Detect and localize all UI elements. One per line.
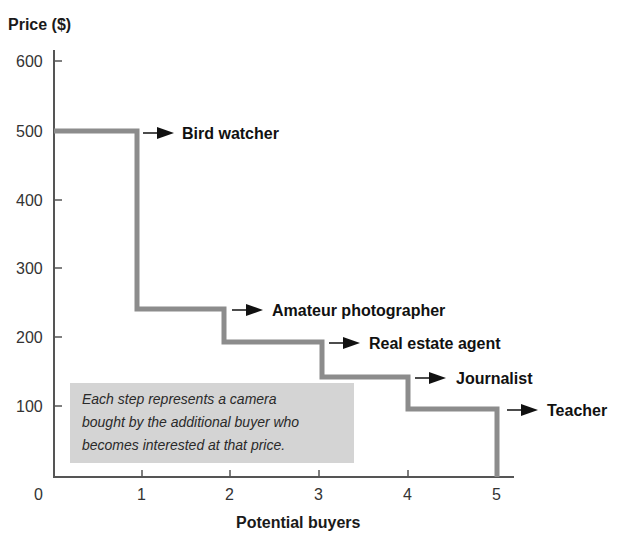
x-tick-0: 0 bbox=[34, 486, 43, 503]
x-tick-1: 1 bbox=[137, 486, 146, 503]
y-tick-600: 600 bbox=[16, 53, 43, 70]
y-tick-labels: 600 500 400 300 200 100 bbox=[16, 53, 43, 415]
x-ticks bbox=[142, 470, 408, 477]
annotation-line-1: Each step represents a camera bbox=[82, 391, 277, 407]
demand-step-chart: Price ($) 600 500 400 300 200 100 0 1 2 … bbox=[0, 0, 637, 538]
y-axis-label: Price ($) bbox=[8, 16, 71, 33]
y-tick-500: 500 bbox=[16, 123, 43, 140]
y-tick-400: 400 bbox=[16, 192, 43, 209]
buyer-label-3: Real estate agent bbox=[329, 335, 501, 352]
buyer-name: Amateur photographer bbox=[272, 302, 445, 319]
arrow-right-icon bbox=[415, 372, 446, 384]
y-tick-300: 300 bbox=[16, 260, 43, 277]
buyer-name: Real estate agent bbox=[369, 335, 501, 352]
arrow-right-icon bbox=[329, 337, 360, 349]
buyer-label-2: Amateur photographer bbox=[232, 302, 445, 319]
x-axis-label: Potential buyers bbox=[236, 514, 361, 531]
arrow-right-icon bbox=[143, 127, 174, 139]
annotation-line-3: becomes interested at that price. bbox=[82, 437, 285, 453]
annotation-line-2: bought by the additional buyer who bbox=[82, 414, 299, 430]
buyer-label-1: Bird watcher bbox=[143, 125, 279, 142]
x-tick-2: 2 bbox=[225, 486, 234, 503]
buyer-name: Bird watcher bbox=[182, 125, 279, 142]
y-tick-200: 200 bbox=[16, 329, 43, 346]
buyer-name: Teacher bbox=[547, 402, 607, 419]
y-ticks bbox=[54, 61, 62, 406]
x-tick-5: 5 bbox=[492, 486, 501, 503]
x-tick-3: 3 bbox=[314, 486, 323, 503]
buyer-label-4: Journalist bbox=[415, 370, 533, 387]
arrow-right-icon bbox=[232, 304, 263, 316]
buyer-label-5: Teacher bbox=[507, 402, 607, 419]
buyer-name: Journalist bbox=[456, 370, 533, 387]
annotation-box: Each step represents a camera bought by … bbox=[70, 383, 354, 463]
x-tick-labels: 0 1 2 3 4 5 bbox=[34, 486, 501, 503]
y-tick-100: 100 bbox=[16, 398, 43, 415]
arrow-right-icon bbox=[507, 404, 538, 416]
x-tick-4: 4 bbox=[403, 486, 412, 503]
